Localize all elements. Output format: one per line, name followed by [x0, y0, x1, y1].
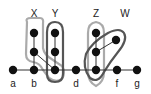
label-f: f	[116, 78, 119, 89]
node-z-mid	[92, 48, 100, 56]
node-b	[30, 66, 38, 74]
node-z-top	[92, 29, 100, 37]
node-y-top	[51, 29, 59, 37]
label-g: g	[134, 78, 140, 89]
node-a	[9, 66, 17, 74]
label-z: Z	[93, 8, 99, 19]
label-a: a	[10, 78, 16, 89]
label-b: b	[31, 78, 37, 89]
label-y: Y	[52, 8, 59, 19]
label-x: X	[31, 8, 38, 19]
node-f	[113, 66, 121, 74]
node-x-mid	[30, 48, 38, 56]
node-w	[112, 36, 120, 44]
node-y-mid	[51, 48, 59, 56]
label-w: W	[120, 8, 130, 19]
node-y-bottom	[51, 66, 59, 74]
node-g	[133, 66, 141, 74]
node-x-top	[30, 29, 38, 37]
node-d	[72, 66, 80, 74]
node-z-bottom	[92, 66, 100, 74]
graph-diagram: X Y Z W a b d f g	[0, 0, 151, 94]
label-d: d	[73, 78, 79, 89]
